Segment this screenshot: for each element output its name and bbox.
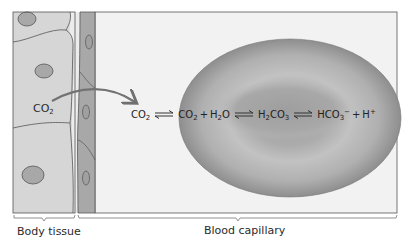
tissue-co2-label: CO2 <box>33 102 54 115</box>
capillary-wall <box>78 12 95 213</box>
body-tissue-label: Body tissue <box>17 225 81 238</box>
eq-term-co2-in: CO2 <box>131 109 150 120</box>
eq-term-hco3: HCO3− <box>317 109 350 120</box>
eq-term-h: H+ <box>362 109 375 120</box>
tissue-nucleus <box>18 12 36 26</box>
endothelial-nucleus <box>86 35 93 49</box>
eq-plus: + <box>200 109 208 120</box>
tissue-nucleus <box>22 166 44 184</box>
tissue-nucleus <box>35 64 53 78</box>
eq-term-h2o: H2O <box>210 109 230 120</box>
endothelial-nucleus <box>83 105 90 119</box>
diagram-canvas <box>0 0 408 246</box>
eq-plus: + <box>352 109 360 120</box>
equilibrium-arrow-icon <box>234 110 254 119</box>
endothelial-nucleus <box>83 171 90 185</box>
equilibrium-arrow-icon <box>293 110 313 119</box>
blood-capillary-label: Blood capillary <box>204 224 285 237</box>
eq-term-h2co3: H2CO3 <box>258 109 289 120</box>
region-braces <box>14 215 397 221</box>
eq-term-co2: CO2 <box>178 109 197 120</box>
bicarbonate-equation: CO2 CO2 + H2O H2CO3 HCO3− + H+ <box>131 109 376 120</box>
equilibrium-arrow-icon <box>154 110 174 119</box>
